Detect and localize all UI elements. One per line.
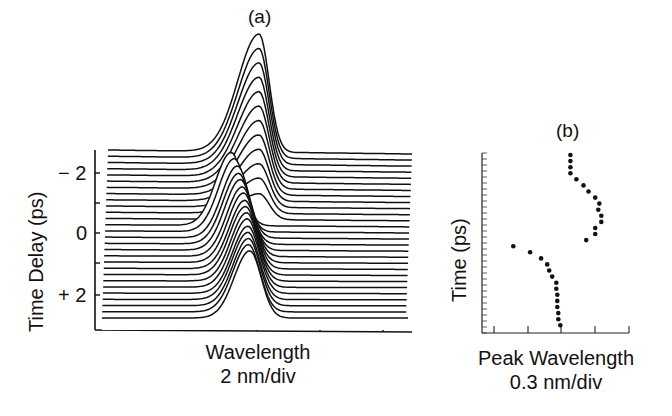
panel-b-x-axis-title: Peak Wavelength 0.3 nm/div (456, 346, 656, 394)
x-axis-unit: 0.3 nm/div (456, 370, 656, 394)
data-point (558, 323, 563, 328)
data-point (593, 195, 598, 200)
data-point (599, 220, 604, 225)
y-tick-minus-2: − 2 (58, 162, 86, 185)
x-axis-unit: 2 nm/div (170, 364, 346, 388)
data-point (528, 250, 533, 255)
panel-b-label: (b) (556, 120, 579, 142)
data-point (554, 280, 559, 285)
panel-a-y-axis-title: Time Delay (ps) (25, 192, 48, 332)
data-point (555, 293, 560, 298)
data-point (568, 171, 573, 176)
data-point (556, 311, 561, 316)
data-point (539, 256, 544, 261)
data-point (556, 317, 561, 322)
data-point (554, 287, 559, 292)
data-point (574, 177, 579, 182)
panel-b-y-axis-title: Time (ps) (448, 218, 471, 302)
data-point (593, 232, 598, 237)
data-point (584, 238, 589, 243)
y-tick-plus-2: + 2 (58, 284, 86, 307)
data-point (599, 214, 604, 219)
data-point (547, 268, 552, 273)
x-axis-label: Peak Wavelength (456, 346, 656, 370)
data-point (555, 299, 560, 304)
data-point (596, 207, 601, 212)
data-point (586, 189, 591, 194)
panel-a-x-axis-title: Wavelength 2 nm/div (170, 340, 346, 388)
data-point (597, 201, 602, 206)
data-point (568, 159, 573, 164)
data-point (511, 244, 516, 249)
data-point (581, 183, 586, 188)
data-point (550, 274, 555, 279)
data-point (568, 165, 573, 170)
y-tick-0: 0 (76, 222, 87, 245)
x-axis-label: Wavelength (170, 340, 346, 364)
data-point (593, 226, 598, 231)
data-point (545, 262, 550, 267)
data-point (555, 305, 560, 310)
data-point (568, 153, 573, 158)
